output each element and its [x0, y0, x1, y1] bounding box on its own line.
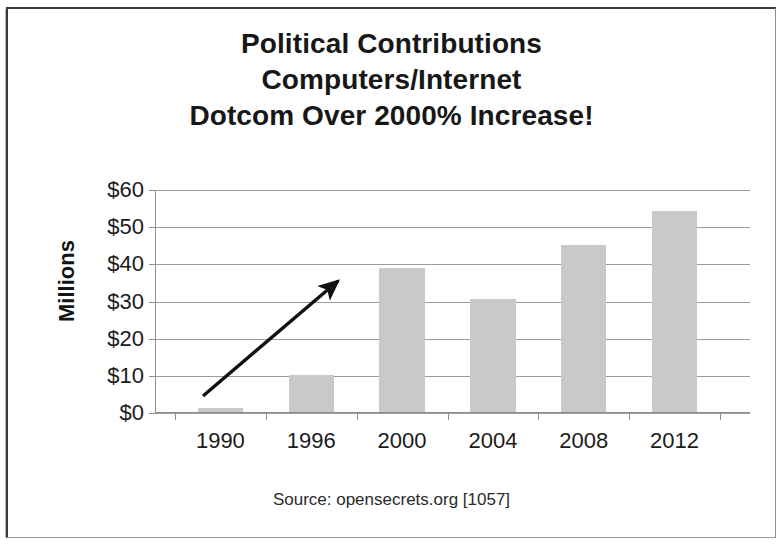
y-tick	[149, 190, 155, 191]
bar-1990	[198, 408, 243, 412]
x-axis-label-2008: 2008	[559, 428, 608, 454]
y-axis-label: $60	[107, 177, 144, 203]
y-tick	[149, 264, 155, 265]
x-tick	[629, 413, 630, 420]
y-axis-label: $50	[107, 214, 144, 240]
y-axis-label: $30	[107, 289, 144, 315]
bar-2012	[652, 211, 697, 412]
y-axis-label: $20	[107, 326, 144, 352]
x-axis-label-2000: 2000	[378, 428, 427, 454]
chart-title: Political Contributions Computers/Intern…	[0, 26, 783, 134]
y-tick	[149, 302, 155, 303]
x-tick	[448, 413, 449, 420]
gridline-$60	[155, 190, 750, 191]
x-tick	[175, 413, 176, 420]
x-axis-label-1990: 1990	[196, 428, 245, 454]
x-tick	[538, 413, 539, 420]
bar-2008	[561, 245, 606, 412]
y-axis-label: $10	[107, 363, 144, 389]
y-tick	[149, 227, 155, 228]
y-tick	[149, 413, 155, 414]
x-tick	[357, 413, 358, 420]
source-note: Source: opensecrets.org [1057]	[0, 490, 783, 510]
gridline-$0	[155, 413, 750, 414]
x-tick	[720, 413, 721, 420]
plot-area: $0$10$20$30$40$50$60 1990199620002004200…	[155, 190, 750, 413]
bar-2000	[379, 268, 424, 412]
y-axis-title: Millions	[54, 211, 80, 351]
bar-1996	[289, 375, 334, 412]
chart-title-line-1: Political Contributions	[0, 26, 783, 62]
y-tick	[149, 376, 155, 377]
x-axis-label-2004: 2004	[468, 428, 517, 454]
chart-title-line-3: Dotcom Over 2000% Increase!	[0, 98, 783, 134]
x-tick	[266, 413, 267, 420]
y-axis-label: $0	[120, 400, 144, 426]
bar-2004	[470, 299, 515, 412]
y-tick	[149, 339, 155, 340]
x-axis-label-1996: 1996	[287, 428, 336, 454]
x-axis-label-2012: 2012	[650, 428, 699, 454]
chart-slide: Political Contributions Computers/Intern…	[0, 0, 783, 545]
chart-title-line-2: Computers/Internet	[0, 62, 783, 98]
y-axis-label: $40	[107, 251, 144, 277]
